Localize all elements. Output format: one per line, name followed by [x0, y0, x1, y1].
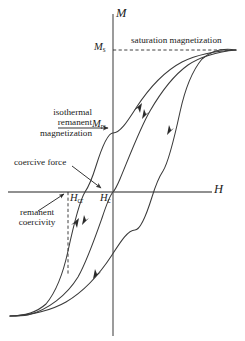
- h-axis-label: H: [214, 182, 223, 196]
- remanent-coercivity-annotation: remanent coercivity: [8, 207, 66, 228]
- isothermal-remanent-magnetization-annotation: isothermal remanent magnetization: [22, 107, 92, 138]
- coercive-force-annotation: coercive force: [14, 157, 66, 167]
- hcr-tick-label: Hcr: [70, 192, 83, 204]
- curve-initial-magnetization: [10, 50, 236, 316]
- mrs-tick-label: Mrs: [92, 118, 106, 130]
- isothermal-line-3: magnetization: [22, 128, 92, 138]
- arrow-initial-curve-lower: [82, 215, 89, 225]
- arrow-ascending-branch-upper: [167, 125, 174, 135]
- remanent-coercivity-line-1: remanent: [8, 207, 66, 217]
- m-axis-label: M: [116, 6, 126, 20]
- remanent-coercivity-line-2: coercivity: [8, 217, 66, 227]
- hc-subscript: c: [108, 197, 111, 205]
- isothermal-line-2: remanent: [22, 117, 92, 127]
- mrs-subscript: rs: [101, 123, 106, 131]
- mrs-symbol: M: [92, 118, 101, 129]
- curve-descending-branch: [10, 50, 236, 316]
- hc-tick-label: Hc: [100, 192, 111, 204]
- ms-subscript: s: [103, 46, 106, 54]
- hcr-subscript: cr: [78, 197, 84, 205]
- hc-symbol: H: [100, 192, 108, 203]
- saturation-magnetization-annotation: saturation magnetization: [131, 35, 222, 45]
- ms-symbol: M: [94, 41, 103, 52]
- leader-coercive-force: [72, 166, 101, 188]
- curve-ascending-branch: [10, 49, 236, 316]
- arrow-ascending-branch-lower: [93, 269, 101, 279]
- hcr-symbol: H: [70, 192, 78, 203]
- hysteresis-figure: M H Ms Mrs Hcr Hc saturation magnetizati…: [0, 0, 245, 341]
- isothermal-line-1: isothermal: [22, 107, 92, 117]
- hysteresis-plot-svg: [0, 0, 245, 341]
- ms-tick-label: Ms: [94, 41, 106, 53]
